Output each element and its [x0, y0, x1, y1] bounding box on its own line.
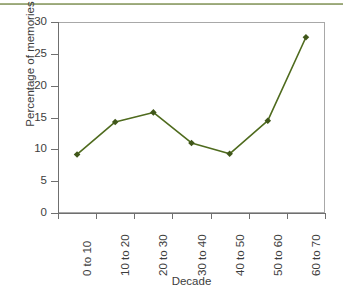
x-tick-1 [96, 213, 97, 219]
y-axis-title: Percentage of memories [24, 0, 36, 154]
x-axis-line [58, 213, 326, 214]
x-tick-7 [325, 213, 326, 219]
x-tick-label-3: 30 to 40 [197, 216, 209, 276]
x-tick-label-1: 10 to 20 [120, 216, 132, 276]
chart-figure: 051015202530 Percentage of memories 0 to… [0, 0, 343, 299]
x-tick-2 [134, 213, 135, 219]
x-tick-5 [249, 213, 250, 219]
y-tick-0 [51, 213, 58, 214]
x-tick-0 [58, 213, 59, 219]
data-point-6 [303, 34, 310, 41]
series-markers [74, 34, 309, 158]
x-tick-label-0: 0 to 10 [82, 216, 94, 276]
x-tick-label-2: 20 to 30 [158, 216, 170, 276]
y-tick-label-0: 0 [7, 207, 47, 219]
x-tick-3 [172, 213, 173, 219]
data-series-line [58, 22, 325, 213]
y-tick-30 [51, 22, 58, 23]
top-divider-rule [0, 3, 343, 5]
x-tick-4 [211, 213, 212, 219]
y-tick-10 [51, 149, 58, 150]
y-tick-25 [51, 54, 58, 55]
y-tick-20 [51, 86, 58, 87]
series-polyline [77, 37, 306, 154]
x-tick-label-6: 60 to 70 [311, 216, 323, 276]
y-tick-5 [51, 181, 58, 182]
x-tick-label-4: 40 to 50 [235, 216, 247, 276]
x-tick-6 [287, 213, 288, 219]
y-tick-label-5: 5 [7, 175, 47, 187]
x-tick-label-5: 50 to 60 [273, 216, 285, 276]
x-axis-title: Decade [58, 275, 325, 287]
y-tick-15 [51, 118, 58, 119]
